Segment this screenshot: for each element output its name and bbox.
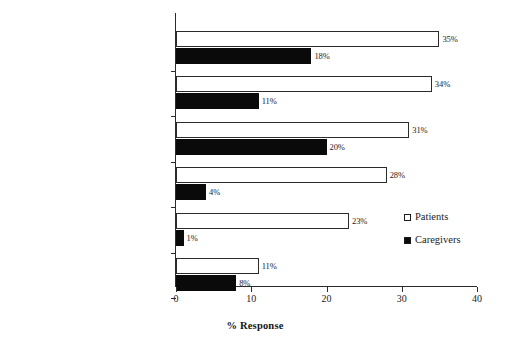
y-axis-tick <box>171 253 176 254</box>
legend-label: Caregivers <box>415 234 460 246</box>
legend: PatientsCaregivers <box>404 211 460 257</box>
category-group: 31%20% <box>176 122 477 156</box>
y-axis-tick <box>171 207 176 208</box>
bar-value-label: 34% <box>435 77 450 91</box>
bar-value-label: 28% <box>390 168 405 182</box>
bar-value-label: 4% <box>209 185 220 199</box>
legend-swatch-hollow <box>404 214 411 221</box>
bar-row: 4% <box>176 184 477 200</box>
bar-row: 18% <box>176 48 477 64</box>
y-axis-tick <box>171 116 176 117</box>
bar-row: 35% <box>176 31 477 47</box>
bar-caregivers <box>176 184 206 200</box>
bar-row: 28% <box>176 167 477 183</box>
x-axis-tick <box>176 287 177 292</box>
x-axis-tick <box>251 287 252 292</box>
x-axis-title: % Response <box>0 320 510 331</box>
category-group: 35%18% <box>176 31 477 65</box>
bar-patients <box>176 213 349 229</box>
bar-caregivers <box>176 93 259 109</box>
bar-caregivers <box>176 230 184 246</box>
bar-value-label: 18% <box>314 49 329 63</box>
bar-chart: 35%18%34%11%31%20%28%4%23%1%11%8% Accept… <box>0 0 510 347</box>
x-axis-tick-label: 10 <box>231 293 271 305</box>
bar-row: 11% <box>176 93 477 109</box>
bar-value-label: 11% <box>262 94 277 108</box>
x-axis-tick-label: 20 <box>307 293 347 305</box>
x-axis-tick-label: 30 <box>382 293 422 305</box>
bar-patients <box>176 122 409 138</box>
bar-row: 20% <box>176 139 477 155</box>
bar-patients <box>176 167 387 183</box>
bar-caregivers <box>176 275 236 291</box>
legend-swatch-filled <box>404 237 411 244</box>
legend-item: Patients <box>404 211 460 223</box>
bar-value-label: 11% <box>262 259 277 273</box>
bar-value-label: 35% <box>442 32 457 46</box>
x-axis-tick <box>402 287 403 292</box>
category-group: 28%4% <box>176 167 477 201</box>
legend-item: Caregivers <box>404 234 460 246</box>
bar-value-label: 8% <box>239 276 250 290</box>
bar-value-label: 20% <box>330 140 345 154</box>
bar-value-label: 1% <box>187 231 198 245</box>
bar-caregivers <box>176 48 311 64</box>
bar-value-label: 23% <box>352 214 367 228</box>
x-axis-tick <box>477 287 478 292</box>
x-axis-tick-label: 40 <box>457 293 497 305</box>
bar-value-label: 31% <box>412 123 427 137</box>
bar-row: 34% <box>176 76 477 92</box>
y-axis-tick <box>171 71 176 72</box>
legend-label: Patients <box>415 211 448 223</box>
x-axis-tick-label: 0 <box>156 293 196 305</box>
bar-row: 31% <box>176 122 477 138</box>
bar-patients <box>176 258 259 274</box>
y-axis-tick <box>171 162 176 163</box>
category-group: 34%11% <box>176 76 477 110</box>
bar-caregivers <box>176 139 327 155</box>
bar-row: 11% <box>176 258 477 274</box>
bar-patients <box>176 76 432 92</box>
x-axis-tick <box>327 287 328 292</box>
bar-patients <box>176 31 439 47</box>
